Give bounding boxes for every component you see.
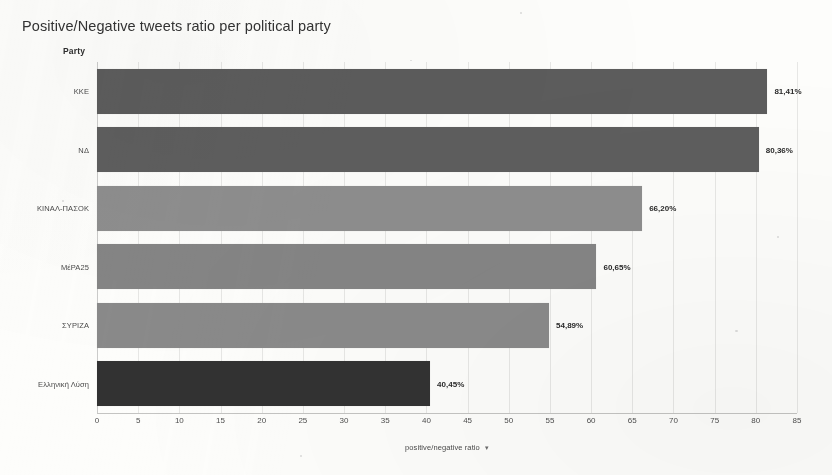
x-axis-line (97, 413, 797, 414)
bar-category-label: Ελληνική Λύση (38, 379, 89, 388)
bar-value-label: 54,89% (556, 321, 583, 330)
x-axis-tick-label: 55 (545, 416, 554, 425)
bar-value-label: 60,65% (603, 262, 630, 271)
x-axis-tick-labels: 0510152025303540455055606570758085 (97, 416, 797, 432)
bar-row: Ελληνική Λύση40,45% (97, 361, 797, 406)
x-axis-tick-label: 80 (751, 416, 760, 425)
x-axis-tick-label: 25 (298, 416, 307, 425)
axis-sort-marker-icon: ▾ (485, 444, 489, 452)
x-axis-tick-label: 10 (175, 416, 184, 425)
scan-speckle (62, 200, 64, 202)
bar-row: ΜέΡΑ2560,65% (97, 244, 797, 289)
bar-value-label: 40,45% (437, 379, 464, 388)
bar-category-label: ΜέΡΑ25 (61, 262, 89, 271)
bar-value-label: 81,41% (774, 87, 801, 96)
x-axis-tick-label: 60 (587, 416, 596, 425)
bar-row: ΣΥΡΙΖΑ54,89% (97, 303, 797, 348)
scan-speckle (520, 12, 522, 14)
bar-value-label: 66,20% (649, 204, 676, 213)
x-axis-tick-label: 40 (422, 416, 431, 425)
x-axis-tick-label: 15 (216, 416, 225, 425)
bar-row: ΝΔ80,36% (97, 127, 797, 172)
bar-category-label: ΚΙΝΑΛ-ΠΑΣΟΚ (37, 204, 89, 213)
bar-category-label: ΚΚΕ (74, 87, 89, 96)
x-axis-tick-label: 65 (628, 416, 637, 425)
scan-speckle (410, 60, 412, 61)
x-axis-tick-label: 35 (381, 416, 390, 425)
plot-area: ΚΚΕ81,41%ΝΔ80,36%ΚΙΝΑΛ-ΠΑΣΟΚ66,20%ΜέΡΑ25… (97, 62, 797, 413)
bars-layer: ΚΚΕ81,41%ΝΔ80,36%ΚΙΝΑΛ-ΠΑΣΟΚ66,20%ΜέΡΑ25… (97, 62, 797, 413)
bar-row: ΚΚΕ81,41% (97, 69, 797, 114)
x-axis-tick-label: 75 (710, 416, 719, 425)
bar[interactable] (97, 69, 767, 114)
scan-speckle (300, 455, 302, 457)
scan-speckle (735, 330, 738, 332)
bar[interactable] (97, 361, 430, 406)
gridline (797, 62, 798, 413)
x-axis-tick-label: 20 (257, 416, 266, 425)
bar-value-label: 80,36% (766, 145, 793, 154)
bar-category-label: ΣΥΡΙΖΑ (62, 321, 89, 330)
x-axis-tick-label: 0 (95, 416, 99, 425)
y-axis-title: Party (63, 46, 85, 56)
bar-category-label: ΝΔ (78, 145, 89, 154)
x-axis-title: positive/negative ratio▾ (97, 443, 797, 452)
bar[interactable] (97, 186, 642, 231)
x-axis-tick-label: 30 (340, 416, 349, 425)
bar[interactable] (97, 127, 759, 172)
x-axis-tick-label: 5 (136, 416, 140, 425)
x-axis-tick-label: 70 (669, 416, 678, 425)
x-axis-tick-label: 85 (793, 416, 802, 425)
chart-title: Positive/Negative tweets ratio per polit… (22, 18, 331, 34)
x-axis-title-text: positive/negative ratio (405, 443, 480, 452)
x-axis-tick-label: 50 (504, 416, 513, 425)
scan-speckle (777, 236, 779, 238)
bar[interactable] (97, 244, 596, 289)
bar[interactable] (97, 303, 549, 348)
bar-row: ΚΙΝΑΛ-ΠΑΣΟΚ66,20% (97, 186, 797, 231)
bar-chart: Positive/Negative tweets ratio per polit… (0, 0, 832, 475)
x-axis-tick-label: 45 (463, 416, 472, 425)
